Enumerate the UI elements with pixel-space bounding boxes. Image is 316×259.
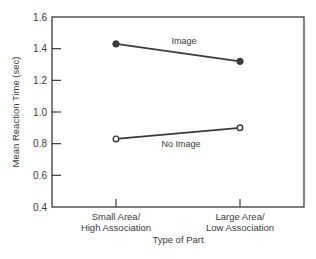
y-tick-label: 0.6 xyxy=(33,170,47,181)
series-layer: ImageNo Image xyxy=(113,36,243,149)
series-label: No Image xyxy=(161,139,200,149)
open-circle-marker xyxy=(237,125,243,131)
x-axis: Small Area/High AssociationLarge Area/Lo… xyxy=(81,199,274,233)
line-chart: 0.40.60.81.01.21.41.6 Small Area/High As… xyxy=(0,0,316,259)
y-tick-label: 1.6 xyxy=(33,12,47,23)
x-axis-title: Type of Part xyxy=(152,234,204,245)
y-axis: 0.40.60.81.01.21.41.6 xyxy=(33,12,61,213)
filled-circle-marker xyxy=(237,58,243,64)
series-label: Image xyxy=(171,36,196,46)
x-category-label: High Association xyxy=(81,222,151,233)
x-category-label: Large Area/ xyxy=(215,211,264,222)
series-line xyxy=(116,128,240,139)
series-line xyxy=(116,44,240,61)
open-circle-marker xyxy=(113,136,119,142)
y-tick-label: 0.4 xyxy=(33,202,47,213)
y-axis-title: Mean Reaction Time (sec) xyxy=(10,57,21,168)
y-tick-label: 0.8 xyxy=(33,138,47,149)
y-tick-label: 1.2 xyxy=(33,75,47,86)
series-no-image: No Image xyxy=(113,125,243,149)
filled-circle-marker xyxy=(113,41,119,47)
x-category-label: Low Association xyxy=(206,222,274,233)
x-category-label: Small Area/ xyxy=(92,211,141,222)
series-image: Image xyxy=(113,36,243,65)
y-tick-label: 1.0 xyxy=(33,107,47,118)
chart-svg: 0.40.60.81.01.21.41.6 Small Area/High As… xyxy=(0,0,316,259)
y-tick-label: 1.4 xyxy=(33,43,47,54)
